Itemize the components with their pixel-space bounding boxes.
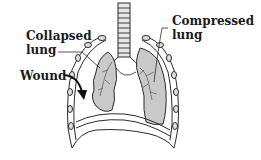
mediastinum bbox=[116, 68, 136, 75]
collapsed-lung-label-line2: lung bbox=[26, 43, 92, 57]
compressed-lung-label-line1: Compressed bbox=[172, 14, 254, 28]
collapsed-lung-label-line1: Collapsed bbox=[26, 29, 92, 43]
collapsed-lung bbox=[92, 52, 116, 111]
compressed-lung bbox=[136, 48, 166, 125]
collapsed-lung-label: Collapsed lung bbox=[26, 29, 92, 57]
wound-label: Wound bbox=[20, 69, 66, 83]
compressed-lung-label-line2: lung bbox=[172, 28, 254, 42]
compressed-lung-label: Compressed lung bbox=[172, 14, 254, 42]
pneumothorax-diagram: Collapsed lung Compressed lung Wound bbox=[0, 0, 261, 160]
